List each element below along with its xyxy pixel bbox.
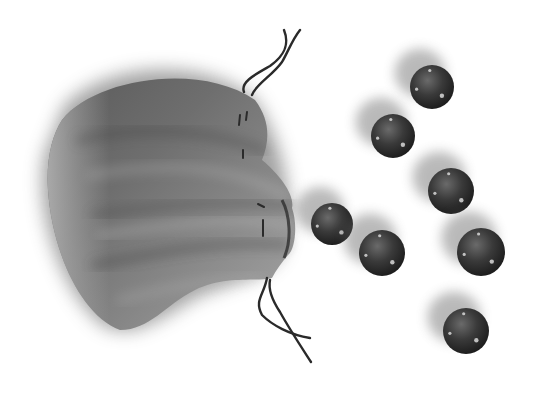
marble-body bbox=[457, 228, 505, 276]
marble-highlight bbox=[448, 332, 451, 335]
marble-body bbox=[443, 308, 489, 354]
marble-body bbox=[410, 65, 454, 109]
marble-highlight bbox=[477, 232, 480, 235]
marbles bbox=[296, 49, 505, 354]
marble bbox=[344, 214, 405, 276]
marble bbox=[441, 212, 505, 276]
marble-body bbox=[428, 168, 474, 214]
marble-highlight bbox=[390, 260, 394, 264]
marble-highlight bbox=[474, 338, 478, 342]
drawstring-top-1 bbox=[243, 30, 286, 92]
marble-highlight bbox=[463, 253, 466, 256]
marble-highlight bbox=[389, 118, 392, 121]
marble-highlight bbox=[328, 207, 331, 210]
marble-highlight bbox=[339, 230, 343, 234]
marble bbox=[356, 98, 415, 158]
pouch bbox=[48, 79, 296, 330]
marble bbox=[395, 49, 454, 109]
marble-highlight bbox=[364, 254, 367, 257]
drawstring-bottom-2 bbox=[269, 280, 311, 362]
marble-body bbox=[371, 114, 415, 158]
marble-highlight bbox=[490, 259, 494, 263]
drawstring-bottom-1 bbox=[259, 278, 310, 338]
marble-highlight bbox=[462, 312, 465, 315]
marble-highlight bbox=[401, 143, 405, 147]
marble-highlight bbox=[440, 94, 444, 98]
marble-highlight bbox=[415, 88, 418, 91]
marble-highlight bbox=[316, 225, 319, 228]
marble-highlight bbox=[428, 69, 431, 72]
pouch-and-marbles-illustration bbox=[0, 0, 538, 393]
marble-highlight bbox=[447, 172, 450, 175]
marble-highlight bbox=[378, 234, 381, 237]
marble-highlight bbox=[459, 198, 463, 202]
marble-highlight bbox=[376, 137, 379, 140]
marble bbox=[428, 292, 489, 354]
marble-body bbox=[359, 230, 405, 276]
marble-highlight bbox=[433, 192, 436, 195]
marble bbox=[413, 152, 474, 214]
